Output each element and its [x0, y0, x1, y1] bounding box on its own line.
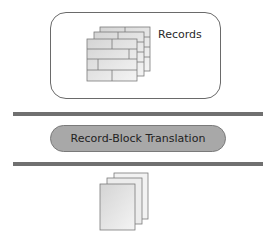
bottom-divider-bar — [13, 162, 263, 166]
translation-label: Record-Block Translation — [71, 132, 206, 145]
top-divider-bar — [13, 112, 263, 116]
records-stack-icon — [87, 27, 150, 81]
record-block-translation-node: Record-Block Translation — [50, 125, 226, 152]
records-label: Records — [158, 28, 202, 41]
blocks-stack-icon — [100, 173, 148, 230]
diagram-graphics — [0, 0, 273, 239]
